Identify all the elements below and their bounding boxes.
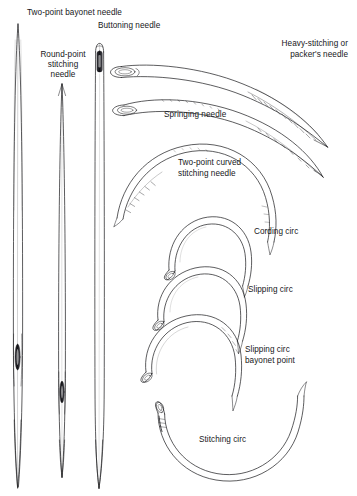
label-slipping-circ-bayonet-point-line1: Slipping circ	[245, 345, 290, 356]
needle-slipping-circ-bayonet-point	[141, 315, 242, 411]
needle-round-point-stitching	[59, 84, 66, 478]
label-two-point-bayonet-needle: Two-point bayonet needle	[27, 8, 122, 19]
label-round-point-stitching-needle-line3: needle	[27, 70, 99, 81]
label-springing-needle: Springing needle	[164, 110, 226, 121]
label-two-point-curved-stitching-needle-line2: stitching needle	[178, 169, 236, 180]
needle-illustration-plate: Two-point bayonet needle Buttoning needl…	[0, 0, 357, 496]
label-heavy-stitching-packers-needle-line1: Heavy-stitching or	[210, 39, 348, 50]
label-round-point-stitching-needle-line2: stitching	[27, 60, 99, 71]
label-slipping-circ-bayonet-point-line2: bayonet point	[245, 356, 295, 367]
needle-stitching-circ	[155, 382, 307, 481]
needle-buttoning	[95, 43, 105, 488]
label-round-point-stitching-needle-line1: Round-point	[27, 50, 99, 61]
label-buttoning-needle: Buttoning needle	[98, 21, 160, 32]
label-heavy-stitching-packers-needle-line2: packer's needle	[210, 50, 348, 61]
label-two-point-curved-stitching-needle-line1: Two-point curved	[178, 158, 241, 169]
needle-heavy-stitching-packers	[111, 65, 328, 147]
label-stitching-circ: Stitching circ	[199, 435, 246, 446]
needle-two-point-bayonet	[13, 24, 22, 488]
label-cording-circ: Cording circ	[254, 227, 298, 238]
label-slipping-circ: Slipping circ	[248, 285, 293, 296]
